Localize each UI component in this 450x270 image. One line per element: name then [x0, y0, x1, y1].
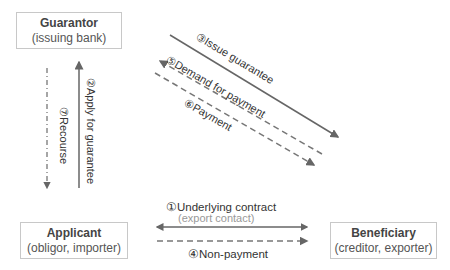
node-subtitle: (obligor, importer) — [21, 241, 127, 256]
node-title: Guarantor — [17, 16, 121, 31]
node-applicant: Applicant (obligor, importer) — [20, 222, 128, 259]
arrow-issue-guarantee — [170, 35, 338, 137]
label-recourse: ⑦Recourse — [57, 107, 70, 164]
label-non-payment: ④Non-payment — [188, 247, 268, 261]
node-subtitle: (issuing bank) — [17, 31, 121, 46]
node-beneficiary: Beneficiary (creditor, exporter) — [330, 222, 437, 259]
node-subtitle: (creditor, exporter) — [331, 241, 436, 256]
arrow-payment — [155, 73, 314, 165]
node-guarantor: Guarantor (issuing bank) — [16, 12, 122, 49]
label-export-contact: (export contact) — [178, 212, 254, 224]
label-apply-guarantee: ②Apply for guarantee — [84, 78, 97, 184]
node-title: Applicant — [21, 226, 127, 241]
node-title: Beneficiary — [331, 226, 436, 241]
